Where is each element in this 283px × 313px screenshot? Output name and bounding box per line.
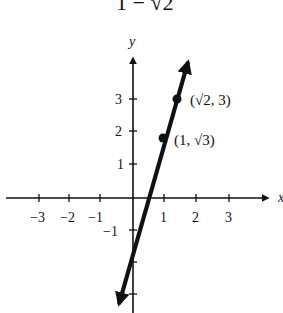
y-tick-label: 3 <box>115 92 122 107</box>
x-tick-label: 1 <box>160 210 167 225</box>
x-tick-label: 2 <box>192 210 199 225</box>
y-axis-label: y <box>127 34 136 49</box>
coordinate-plot: −3 −2 −1 1 2 3 3 2 1 −1 y x (√2, 3) (1, … <box>0 0 283 313</box>
x-axis-label: x <box>277 190 283 205</box>
y-tick-label: −1 <box>103 224 118 239</box>
point-label-1-sqrt3: (1, √3) <box>174 132 215 149</box>
y-tick-label: 1 <box>117 157 124 172</box>
x-tick-label: −1 <box>88 210 103 225</box>
x-tick-label: 3 <box>225 210 232 225</box>
point-1-sqrt3 <box>159 134 168 143</box>
point-label-sqrt2-3: (√2, 3) <box>190 92 231 109</box>
x-tick-label: −2 <box>60 210 75 225</box>
y-tick-label: 2 <box>115 124 122 139</box>
point-sqrt2-3 <box>173 95 182 104</box>
x-tick-label: −3 <box>30 210 45 225</box>
